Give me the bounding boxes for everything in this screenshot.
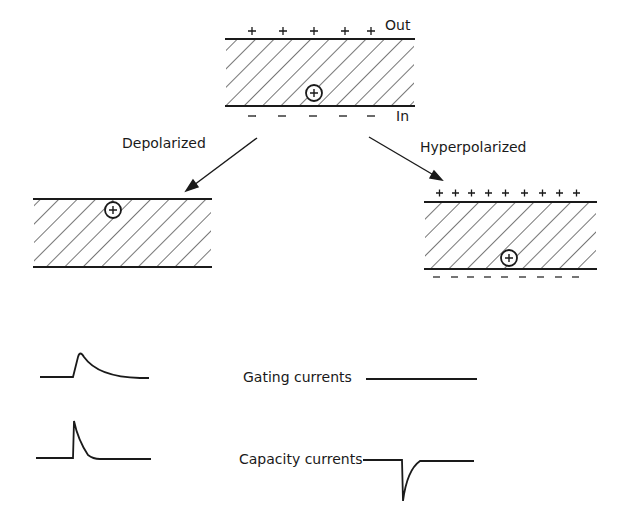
capacity-current-hyperpolarized-trace [363,460,474,501]
in-label: In [396,108,409,124]
right-outside-charges [436,190,580,197]
capacity-currents-label: Capacity currents [239,451,362,467]
top-ion-icon [306,85,322,101]
left-membrane [33,199,212,267]
right-membrane [424,190,597,278]
right-ion-icon [501,250,517,266]
hyperpolarized-label: Hyperpolarized [420,139,526,155]
diagram-svg [0,0,628,509]
depolarized-label: Depolarized [122,135,206,151]
out-label: Out [385,17,410,33]
gating-currents-label: Gating currents [243,369,352,385]
left-ion-icon [105,202,121,218]
top-membrane [225,27,415,116]
top-outside-charges [248,27,375,35]
capacity-current-depolarized-trace [36,421,151,459]
diagram-canvas: Out In Depolarized Hyperpolarized Gating… [0,0,628,509]
gating-current-depolarized-trace [40,354,149,379]
